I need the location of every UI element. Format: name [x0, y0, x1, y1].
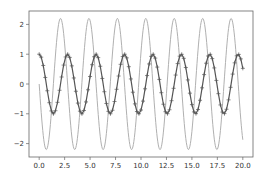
plus-marker	[88, 75, 92, 79]
y-axis-ticks: 210−1−2	[14, 21, 29, 148]
plus-marker	[239, 57, 243, 61]
plus-marker	[159, 91, 163, 95]
series-velocity	[39, 18, 243, 149]
plus-marker	[104, 101, 108, 105]
x-tick-label: 12.5	[159, 162, 175, 170]
x-tick-label: 2.5	[59, 162, 70, 170]
plus-marker	[72, 76, 76, 80]
plus-marker	[43, 75, 47, 79]
plus-marker	[129, 77, 133, 81]
y-tick-label: 0	[20, 81, 24, 89]
plus-marker	[182, 56, 186, 60]
plus-marker	[241, 66, 245, 70]
plus-marker	[170, 99, 174, 103]
plus-marker	[233, 61, 237, 65]
y-tick-label: −2	[14, 140, 24, 148]
y-tick-label: −1	[14, 110, 24, 118]
plus-marker	[102, 90, 106, 94]
plus-marker	[56, 100, 60, 104]
plus-marker	[113, 100, 117, 104]
plus-marker	[41, 63, 45, 67]
plus-marker	[190, 103, 194, 107]
plus-marker	[143, 87, 147, 91]
plus-marker	[90, 63, 94, 67]
plus-marker	[218, 103, 222, 107]
plus-marker	[117, 74, 121, 78]
plus-marker	[174, 73, 178, 77]
plus-marker	[131, 90, 135, 94]
plus-marker	[60, 75, 64, 79]
plus-marker	[225, 107, 229, 111]
x-tick-label: 15.0	[184, 162, 200, 170]
plus-marker	[231, 72, 235, 76]
plus-marker	[157, 77, 161, 81]
plus-marker	[216, 92, 220, 96]
plus-marker	[196, 108, 200, 112]
plus-marker	[145, 74, 149, 78]
plus-marker	[210, 57, 214, 61]
y-tick-label: 2	[20, 21, 24, 29]
plus-marker	[229, 85, 233, 89]
plus-marker	[155, 65, 159, 69]
plus-marker	[172, 86, 176, 90]
plus-marker	[184, 66, 188, 70]
x-tick-label: 10.0	[133, 162, 149, 170]
plus-marker	[198, 98, 202, 102]
x-tick-label: 17.5	[210, 162, 226, 170]
plus-marker	[62, 63, 66, 67]
plus-marker	[127, 65, 131, 69]
plus-marker	[161, 102, 165, 106]
plus-marker	[76, 101, 80, 105]
x-tick-label: 5.0	[85, 162, 96, 170]
series-layer	[37, 18, 245, 149]
plus-marker	[186, 78, 190, 82]
plus-marker	[188, 91, 192, 95]
series-position	[37, 52, 245, 116]
plus-marker	[202, 73, 206, 77]
plus-marker	[214, 78, 218, 82]
plus-marker	[212, 66, 216, 70]
x-tick-label: 7.5	[110, 162, 121, 170]
plus-marker	[227, 98, 231, 102]
plus-marker	[98, 64, 102, 68]
plus-marker	[200, 86, 204, 90]
plus-marker	[45, 89, 49, 93]
plot-frame	[29, 11, 253, 157]
plus-marker	[58, 88, 62, 92]
plus-marker	[100, 76, 104, 80]
plus-marker	[141, 99, 145, 103]
x-axis-ticks: 0.02.55.07.510.012.515.017.520.0	[34, 157, 251, 170]
plus-marker	[147, 62, 151, 66]
plus-marker	[70, 64, 74, 68]
plus-marker	[47, 101, 51, 105]
plus-marker	[119, 62, 123, 66]
x-tick-label: 0.0	[34, 162, 45, 170]
plus-marker	[74, 89, 78, 93]
plus-marker	[86, 88, 90, 92]
plus-marker	[84, 100, 88, 104]
plus-marker	[176, 62, 180, 66]
plus-marker	[204, 61, 208, 65]
plus-marker	[133, 102, 137, 106]
x-tick-label: 20.0	[235, 162, 251, 170]
y-tick-label: 1	[20, 51, 24, 59]
plus-marker	[115, 87, 119, 91]
line-chart: 0.02.55.07.510.012.515.017.520.0 210−1−2	[0, 0, 266, 179]
